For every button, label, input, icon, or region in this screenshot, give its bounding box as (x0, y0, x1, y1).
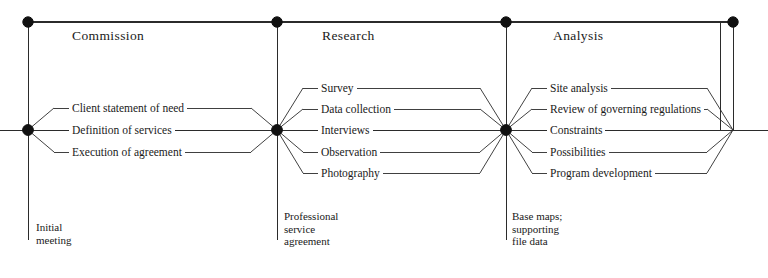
phase-title-analysis: Analysis (553, 28, 603, 44)
commission-top-node (23, 17, 33, 27)
phase-title-research: Research (322, 28, 375, 44)
branch-1-4-right-diagonal (480, 130, 506, 173)
completion-top-node (728, 17, 738, 27)
branch-label-2-4: Program development (547, 167, 655, 179)
branch-label-1-4: Photography (318, 167, 383, 179)
branch-label-0-0: Client statement of need (69, 102, 187, 114)
branch-2-0-left-diagonal (506, 88, 532, 130)
research-axis-node (272, 125, 283, 136)
branch-label-1-0: Survey (318, 82, 357, 94)
branch-1-0-right-diagonal (480, 88, 506, 130)
branch-label-0-2: Execution of agreement (69, 146, 185, 158)
process-diagram: CommissionClient statement of needDefini… (0, 0, 768, 278)
deliverable-label-research: Professional service agreement (284, 210, 338, 248)
branch-2-4-left-diagonal (506, 130, 532, 173)
branch-label-2-1: Review of governing regulations (547, 103, 704, 115)
branch-label-1-1: Data collection (318, 103, 394, 115)
commission-axis-node (23, 125, 34, 136)
branch-label-1-2: Interviews (318, 124, 373, 136)
branch-label-1-3: Observation (318, 146, 380, 158)
research-top-node (272, 17, 282, 27)
deliverable-label-commission: Initial meeting (36, 221, 71, 246)
deliverable-label-analysis: Base maps; supporting file data (512, 210, 562, 248)
analysis-axis-node (501, 125, 512, 136)
branch-1-4-left-diagonal (277, 130, 303, 173)
branch-2-4-right-diagonal (707, 130, 733, 173)
branch-label-2-0: Site analysis (547, 82, 611, 94)
branch-2-3-right-diagonal (707, 130, 733, 152)
branch-label-2-3: Possibilities (547, 146, 609, 158)
analysis-top-node (501, 17, 511, 27)
phase-title-commission: Commission (72, 28, 144, 44)
branch-1-0-left-diagonal (277, 88, 303, 130)
branch-label-0-1: Definition of services (69, 124, 175, 136)
branch-label-2-2: Constraints (547, 124, 605, 136)
